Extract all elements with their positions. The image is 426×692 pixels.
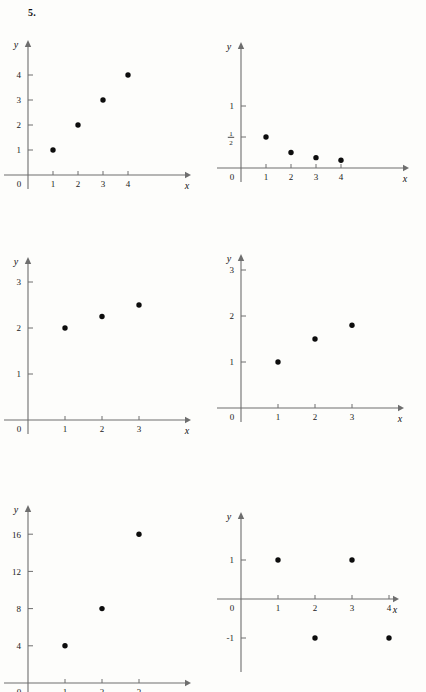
data-point (75, 122, 80, 127)
data-point (136, 302, 141, 307)
x-axis-arrow-icon (398, 405, 404, 411)
x-axis-tick-label: 1 (264, 172, 269, 182)
x-axis-tick-label: 1 (276, 412, 281, 422)
origin-tick-label: 0 (17, 179, 22, 189)
y-axis-tick-label: 12 (12, 567, 21, 577)
data-point (99, 606, 104, 611)
data-point (338, 158, 343, 163)
scatter-plot-c: yx0123123 (0, 245, 213, 445)
data-point (275, 557, 280, 562)
x-axis-label: x (184, 425, 190, 436)
data-point (386, 635, 391, 640)
y-axis-tick-label: 3 (17, 95, 22, 105)
data-point (263, 134, 268, 139)
y-axis-arrow-icon (25, 505, 31, 512)
y-axis-tick-label: 1 (230, 555, 235, 565)
data-point (349, 557, 354, 562)
data-point (312, 336, 317, 341)
y-axis-tick-label: 8 (17, 604, 22, 614)
y-axis-label: y (13, 504, 19, 515)
scatter-plot-b: yx01234121 (213, 30, 426, 205)
data-point (100, 97, 105, 102)
y-axis-label: y (13, 39, 19, 50)
data-point (275, 359, 280, 364)
x-axis-tick-label: 3 (137, 687, 142, 692)
data-point (99, 314, 104, 319)
x-axis-tick-label: 4 (387, 603, 392, 613)
y-axis-label: y (226, 41, 232, 52)
data-point (313, 155, 318, 160)
scatter-plot-f: yx012341-1 (213, 500, 426, 692)
x-axis-arrow-icon (185, 680, 191, 686)
y-axis-tick-label: -1 (227, 633, 235, 643)
x-axis-tick-label: 2 (76, 179, 81, 189)
y-axis-tick-label: 2 (17, 120, 22, 130)
x-axis-tick-label: 2 (100, 424, 105, 434)
y-axis-arrow-icon (238, 42, 244, 49)
data-point (62, 325, 67, 330)
y-axis-tick-label: 2 (230, 311, 235, 321)
y-axis-label: y (13, 256, 19, 267)
scatter-plot-d: yx0123123 (213, 240, 426, 440)
figure-page: 5. yx012341234 yx01234121 yx0123123 yx01… (0, 0, 426, 692)
data-point (312, 635, 317, 640)
origin-tick-label: 0 (230, 412, 235, 422)
y-axis-tick-label: 1 (17, 369, 22, 379)
y-axis-label: y (226, 253, 232, 264)
plot-b-canvas: yx01234121 (213, 30, 426, 205)
x-axis-tick-label: 3 (137, 424, 142, 434)
data-point (288, 150, 293, 155)
plot-e-canvas: yx0123481216 (0, 495, 213, 692)
y-axis-arrow-icon (25, 40, 31, 47)
y-axis-label: y (226, 511, 232, 522)
plot-f-canvas: yx012341-1 (213, 500, 426, 692)
x-axis-tick-label: 3 (314, 172, 319, 182)
origin-tick-label: 0 (17, 687, 22, 692)
x-axis-arrow-icon (185, 172, 191, 178)
problem-number-label: 5. (28, 7, 36, 18)
x-axis-arrow-icon (403, 165, 409, 171)
x-axis-tick-label: 2 (313, 412, 318, 422)
origin-tick-label: 0 (17, 424, 22, 434)
y-axis-arrow-icon (238, 254, 244, 261)
scatter-plot-a: yx012341234 (0, 30, 213, 205)
x-axis-tick-label: 2 (100, 687, 105, 692)
y-axis-tick-label: 1 (230, 101, 235, 111)
x-axis-label: x (402, 173, 408, 184)
data-point (125, 72, 130, 77)
x-axis-tick-label: 4 (339, 172, 344, 182)
origin-tick-label: 0 (230, 603, 235, 613)
plot-a-canvas: yx012341234 (0, 30, 213, 205)
y-axis-tick-label-denominator: 2 (229, 139, 233, 147)
x-axis-tick-label: 1 (63, 424, 68, 434)
x-axis-label: x (184, 180, 190, 191)
y-axis-arrow-icon (238, 512, 244, 519)
data-point (349, 323, 354, 328)
x-axis-tick-label: 3 (350, 603, 355, 613)
x-axis-tick-label: 2 (289, 172, 294, 182)
y-axis-arrow-icon (25, 257, 31, 264)
x-axis-tick-label: 1 (63, 687, 68, 692)
x-axis-label: x (184, 688, 190, 692)
x-axis-tick-label: 4 (126, 179, 131, 189)
y-axis-tick-label: 4 (17, 641, 22, 651)
x-axis-tick-label: 3 (101, 179, 106, 189)
scatter-plot-e: yx0123481216 (0, 495, 213, 692)
y-axis-tick-label: 3 (17, 277, 22, 287)
x-axis-label: x (397, 413, 403, 424)
x-axis-arrow-icon (185, 417, 191, 423)
x-axis-tick-label: 1 (51, 179, 56, 189)
data-point (62, 643, 67, 648)
y-axis-tick-label-numerator: 1 (229, 130, 233, 138)
plot-c-canvas: yx0123123 (0, 245, 213, 445)
y-axis-tick-label: 1 (230, 357, 235, 367)
x-axis-label: x (392, 604, 398, 615)
y-axis-tick-label: 2 (17, 323, 22, 333)
x-axis-tick-label: 2 (313, 603, 318, 613)
data-point (136, 532, 141, 537)
plot-d-canvas: yx0123123 (213, 240, 426, 440)
data-point (50, 147, 55, 152)
origin-tick-label: 0 (230, 172, 235, 182)
x-axis-tick-label: 3 (350, 412, 355, 422)
x-axis-tick-label: 1 (276, 603, 281, 613)
